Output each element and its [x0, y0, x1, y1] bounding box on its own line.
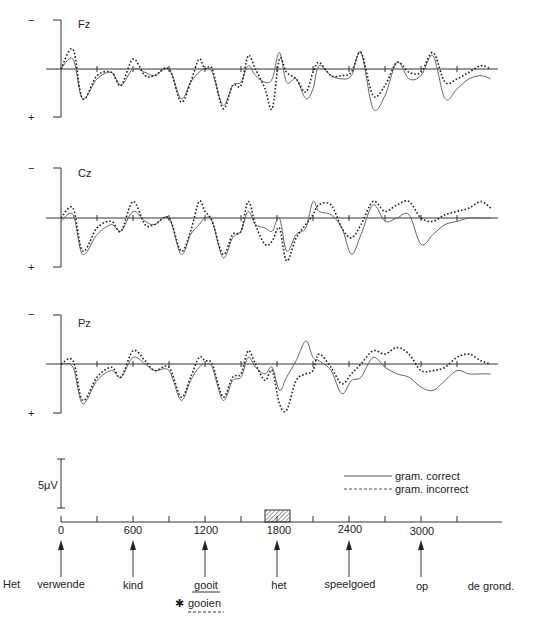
plus-label-fz: +: [28, 111, 34, 123]
panel-pz: [46, 315, 498, 413]
scale-label: 5μV: [38, 479, 58, 491]
plus-label-cz: +: [28, 261, 34, 273]
highlight-window: [265, 510, 290, 522]
tick-label-3000: 3000: [410, 525, 434, 537]
erp-figure: − Fz + − Cz + − Pz + 5μV gram. correct g…: [0, 0, 554, 621]
tick-label-2400: 2400: [338, 523, 362, 535]
legend-incorrect: gram. incorrect: [395, 483, 468, 495]
panel-fz: [46, 20, 498, 117]
tick-label-600: 600: [124, 524, 142, 536]
scale-bar: 5μV: [38, 459, 65, 508]
word-kind: kind: [123, 579, 143, 591]
tick-label-0: 0: [58, 524, 64, 536]
minus-label-cz: −: [28, 162, 34, 174]
legend-correct: gram. correct: [395, 470, 460, 482]
word-op: op: [416, 580, 428, 592]
star-marker: ✱: [175, 597, 184, 609]
series-incorrect-line: [61, 48, 491, 109]
panel-cz: [46, 168, 498, 267]
word-het: Het: [3, 578, 20, 590]
series-correct-line: [61, 201, 491, 258]
panel-label-cz: Cz: [78, 167, 91, 179]
minus-label-pz: −: [28, 308, 34, 320]
panel-label-pz: Pz: [78, 317, 91, 329]
legend: gram. correct gram. incorrect: [344, 470, 468, 495]
minus-label-fz: −: [28, 14, 34, 26]
word-gooit: gooit: [194, 579, 218, 591]
word-speelgoed: speelgoed: [325, 578, 376, 590]
series-incorrect-line: [61, 201, 491, 261]
tick-label-1800: 1800: [267, 524, 291, 536]
word-arrows: [58, 540, 424, 577]
word-verwende: verwende: [37, 578, 85, 590]
time-axis: 0 600 1200 1800 2400 3000: [58, 510, 502, 537]
panel-label-fz: Fz: [78, 18, 90, 30]
word-het-2: het: [271, 579, 286, 591]
plus-label-pz: +: [28, 407, 34, 419]
tick-label-1200: 1200: [194, 524, 218, 536]
word-gooien: gooien: [188, 597, 221, 609]
word-de-grond: de grond.: [468, 580, 514, 592]
